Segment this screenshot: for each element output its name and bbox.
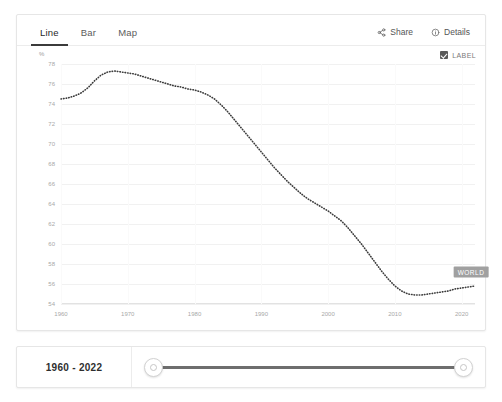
year-range-slider[interactable] <box>132 347 485 387</box>
y-axis-tick-label: 74 <box>48 101 55 107</box>
x-axis-tick-label: 1960 <box>54 311 67 317</box>
x-axis-tick-label: 2010 <box>388 311 401 317</box>
y-axis-tick-label: 58 <box>48 261 55 267</box>
tab-line-label: Line <box>40 27 59 38</box>
y-axis-tick-label: 78 <box>48 61 55 67</box>
x-axis-tick-label: 1970 <box>121 311 134 317</box>
chart-card: Line Bar Map <box>16 14 486 331</box>
tab-bar[interactable]: Bar <box>70 27 107 45</box>
y-axis-unit: % <box>39 51 44 57</box>
x-axis-tick-label: 1980 <box>188 311 201 317</box>
x-axis-tick-label: 2020 <box>455 311 468 317</box>
y-axis-tick-label: 64 <box>48 201 55 207</box>
share-button[interactable]: Share <box>370 24 420 40</box>
tab-line[interactable]: Line <box>29 27 70 45</box>
x-axis-tick-label: 1990 <box>255 311 268 317</box>
slider-handle-start[interactable] <box>144 358 163 377</box>
y-axis-tick-label: 72 <box>48 121 55 127</box>
series-line-world <box>61 64 475 304</box>
y-axis-tick-label: 60 <box>48 241 55 247</box>
y-gridline <box>61 304 475 305</box>
y-axis-tick-label: 76 <box>48 81 55 87</box>
chart-tab-bar: Line Bar Map <box>17 15 485 46</box>
x-axis-tick-label: 2000 <box>321 311 334 317</box>
chart-tabs: Line Bar Map <box>17 15 148 45</box>
details-button[interactable]: Details <box>424 24 477 40</box>
slider-handle-end[interactable] <box>454 358 473 377</box>
chart-actions: Share Details <box>370 24 485 45</box>
y-axis-tick-label: 54 <box>48 301 55 307</box>
label-toggle[interactable]: LABEL <box>440 51 476 59</box>
timeline-card: 1960 - 2022 <box>16 346 486 388</box>
series-end-label: WORLD <box>454 267 489 278</box>
y-axis-tick-label: 56 <box>48 281 55 287</box>
slider-track[interactable] <box>152 366 465 369</box>
y-axis-tick-label: 68 <box>48 161 55 167</box>
label-checkbox[interactable] <box>440 51 448 59</box>
series-path <box>61 71 475 295</box>
details-button-label: Details <box>444 27 470 37</box>
plot-area[interactable]: 7876747270686664626058565419601970198019… <box>61 64 475 304</box>
tab-map-label: Map <box>118 27 137 38</box>
tab-bar-label: Bar <box>81 27 96 38</box>
y-axis-tick-label: 70 <box>48 141 55 147</box>
year-range-label: 1960 - 2022 <box>17 347 132 387</box>
tab-map[interactable]: Map <box>107 27 148 45</box>
share-icon <box>377 28 386 37</box>
y-axis-tick-label: 66 <box>48 181 55 187</box>
label-checkbox-text: LABEL <box>452 52 476 59</box>
screenshot-root: Line Bar Map <box>0 0 502 402</box>
chart-body: % LABEL 78767472706866646260585654196019… <box>17 46 485 331</box>
y-axis-tick-label: 62 <box>48 221 55 227</box>
plot-wrapper: 7876747270686664626058565419601970198019… <box>17 60 485 331</box>
share-button-label: Share <box>390 27 413 37</box>
info-icon <box>431 28 440 37</box>
